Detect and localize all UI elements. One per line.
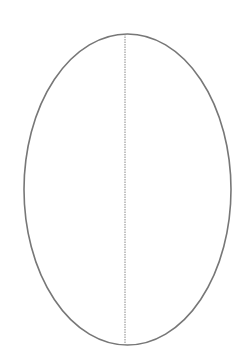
diagram-svg (0, 0, 251, 364)
diagram-canvas (0, 0, 251, 364)
ellipse-outline (24, 34, 231, 345)
